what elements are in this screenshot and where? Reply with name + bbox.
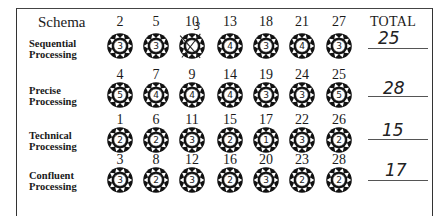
item-number: 27 bbox=[324, 14, 354, 30]
score-digit: 2 bbox=[217, 127, 243, 153]
handwritten-total: 28 bbox=[383, 78, 405, 98]
score-digit: 3 bbox=[179, 167, 205, 193]
score-badge: 3 bbox=[107, 33, 133, 59]
item-number: 10 bbox=[177, 14, 207, 30]
item-number: 2 bbox=[105, 14, 135, 30]
item-number: 28 bbox=[324, 152, 354, 168]
score-badge: 2 bbox=[107, 127, 133, 153]
score-digit: 3 bbox=[253, 82, 279, 108]
score-badge: 3 bbox=[253, 82, 279, 108]
score-digit: 4 bbox=[143, 82, 169, 108]
score-badge: 2 bbox=[143, 167, 169, 193]
score-digit: 2 bbox=[107, 127, 133, 153]
score-digit: 4 bbox=[289, 33, 315, 59]
item-number: 12 bbox=[177, 152, 207, 168]
item-number: 5 bbox=[141, 14, 171, 30]
score-badge: 4 bbox=[179, 82, 205, 108]
row-label-line1: Sequential bbox=[29, 38, 77, 49]
score-digit: 2 bbox=[326, 167, 352, 193]
score-badge: 5 bbox=[107, 82, 133, 108]
score-digit: 2 bbox=[217, 167, 243, 193]
item-number: 8 bbox=[141, 152, 171, 168]
score-badge: 2 bbox=[143, 127, 169, 153]
item-number: 25 bbox=[324, 67, 354, 83]
handwritten-total: 15 bbox=[382, 120, 404, 140]
total-underline bbox=[368, 180, 428, 181]
score-badge: 3 bbox=[179, 167, 205, 193]
score-badge: 4 bbox=[143, 82, 169, 108]
row-label-confluent: ConfluentProcessing bbox=[29, 170, 77, 192]
score-digit: 2 bbox=[326, 127, 352, 153]
item-number: 21 bbox=[287, 14, 317, 30]
item-number: 9 bbox=[177, 67, 207, 83]
score-digit: 3 bbox=[289, 127, 315, 153]
item-number: 19 bbox=[251, 67, 281, 83]
score-digit: 3 bbox=[179, 127, 205, 153]
score-badge: 2 bbox=[217, 167, 243, 193]
row-label-line2: Processing bbox=[29, 49, 77, 60]
item-number: 20 bbox=[251, 152, 281, 168]
score-digit: 3 bbox=[289, 82, 315, 108]
score-badge: 5 bbox=[326, 82, 352, 108]
schema-header: Schema bbox=[38, 14, 85, 31]
item-number: 18 bbox=[251, 14, 281, 30]
item-number: 1 bbox=[105, 112, 135, 128]
item-number: 24 bbox=[287, 67, 317, 83]
score-badge: 2 bbox=[326, 127, 352, 153]
score-digit: 3 bbox=[107, 167, 133, 193]
score-badge: 3 bbox=[143, 33, 169, 59]
item-number: 23 bbox=[287, 152, 317, 168]
score-digit: 5 bbox=[107, 82, 133, 108]
row-label-line2: Processing bbox=[29, 96, 77, 107]
score-badge: 3 bbox=[289, 82, 315, 108]
row-label-line1: Precise bbox=[29, 85, 77, 96]
score-badge: 4 bbox=[217, 33, 243, 59]
score-badge: 3 bbox=[289, 127, 315, 153]
item-number: 4 bbox=[105, 67, 135, 83]
score-digit: 2 bbox=[143, 167, 169, 193]
score-badge: 2 bbox=[217, 127, 243, 153]
handwritten-total: 17 bbox=[385, 160, 407, 180]
item-number: 15 bbox=[215, 112, 245, 128]
row-label-line2: Processing bbox=[29, 141, 77, 152]
score-badge: 3 bbox=[326, 33, 352, 59]
item-number: 13 bbox=[215, 14, 245, 30]
row-label-line1: Confluent bbox=[29, 170, 77, 181]
score-digit: 3 bbox=[253, 167, 279, 193]
score-badge: 3 bbox=[179, 127, 205, 153]
item-number: 16 bbox=[215, 152, 245, 168]
item-number: 17 bbox=[251, 112, 281, 128]
score-digit: 5 bbox=[326, 82, 352, 108]
score-badge: 2 bbox=[326, 167, 352, 193]
item-number: 14 bbox=[215, 67, 245, 83]
score-digit: 3 bbox=[107, 33, 133, 59]
handwritten-total: 25 bbox=[378, 28, 400, 48]
total-underline bbox=[368, 48, 428, 49]
score-digit: 2 bbox=[143, 127, 169, 153]
item-number: 26 bbox=[324, 112, 354, 128]
row-label-technical: TechnicalProcessing bbox=[29, 130, 77, 152]
score-digit: 2 bbox=[289, 167, 315, 193]
score-badge: 2 bbox=[289, 167, 315, 193]
score-badge: 4 bbox=[289, 33, 315, 59]
row-label-sequential: SequentialProcessing bbox=[29, 38, 77, 60]
item-number: 3 bbox=[105, 152, 135, 168]
score-digit: 1 bbox=[253, 127, 279, 153]
score-digit: 3 bbox=[326, 33, 352, 59]
score-digit: 3 bbox=[143, 33, 169, 59]
score-badge: 3 bbox=[253, 33, 279, 59]
item-number: 7 bbox=[141, 67, 171, 83]
score-badge: 4 bbox=[217, 82, 243, 108]
handwritten-correction: 3 bbox=[194, 21, 200, 32]
score-digit: 4 bbox=[179, 82, 205, 108]
score-digit: 4 bbox=[217, 33, 243, 59]
row-label-line1: Technical bbox=[29, 130, 77, 141]
score-badge: 1 bbox=[253, 127, 279, 153]
row-label-line2: Processing bbox=[29, 181, 77, 192]
row-label-precise: PreciseProcessing bbox=[29, 85, 77, 107]
score-badge: 3 bbox=[107, 167, 133, 193]
score-digit: 4 bbox=[217, 82, 243, 108]
item-number: 11 bbox=[177, 112, 207, 128]
item-number: 22 bbox=[287, 112, 317, 128]
score-digit: 3 bbox=[253, 33, 279, 59]
